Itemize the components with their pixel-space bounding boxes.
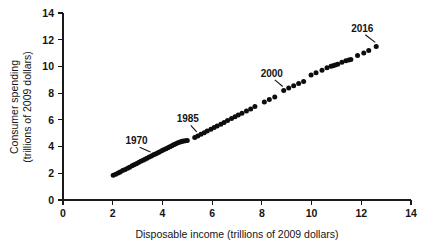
annotation-leader-2016 — [365, 35, 375, 43]
data-point — [248, 106, 253, 111]
y-tick-label: 10 — [42, 60, 54, 72]
x-tick-label: 12 — [355, 207, 367, 219]
x-axis-ticks: 02468101214 — [60, 200, 417, 219]
annotation-label-1985: 1985 — [177, 113, 200, 124]
x-tick-label: 6 — [209, 207, 215, 219]
data-point — [239, 111, 244, 116]
data-point — [361, 51, 366, 56]
annotation-leader-1970 — [140, 147, 151, 152]
data-point — [309, 73, 314, 78]
data-point — [252, 104, 257, 109]
data-point — [272, 94, 277, 99]
chart-canvas: 02468101214 02468101214 1970198520002016… — [0, 0, 429, 245]
data-point — [262, 99, 267, 104]
y-tick-label: 4 — [48, 140, 54, 152]
data-point — [244, 109, 249, 114]
scatter-chart: 02468101214 02468101214 1970198520002016… — [0, 0, 429, 245]
y-axis-title-line2: (trillions of 2009 dollars) — [21, 51, 33, 162]
data-point — [374, 44, 379, 49]
y-tick-label: 14 — [42, 7, 54, 19]
y-tick-label: 12 — [42, 34, 54, 46]
data-points-group — [111, 44, 379, 178]
x-tick-label: 8 — [259, 207, 265, 219]
y-tick-label: 2 — [48, 167, 54, 179]
annotation-label-2016: 2016 — [351, 23, 374, 34]
data-point — [301, 79, 306, 84]
data-point — [296, 81, 301, 86]
x-tick-label: 14 — [405, 207, 417, 219]
x-tick-label: 10 — [306, 207, 318, 219]
y-axis-title-line1: Consumer spending — [8, 60, 20, 154]
y-tick-label: 6 — [48, 114, 54, 126]
y-tick-label: 0 — [48, 194, 54, 206]
data-point — [281, 88, 286, 93]
data-point — [185, 138, 190, 143]
data-point — [366, 48, 371, 53]
data-point — [335, 62, 340, 67]
y-axis-group: 02468101214 — [42, 7, 63, 206]
y-tick-label: 8 — [48, 87, 54, 99]
y-axis-ticks: 02468101214 — [42, 7, 63, 206]
data-point — [291, 83, 296, 88]
x-tick-label: 0 — [60, 207, 66, 219]
annotation-label-1970: 1970 — [125, 135, 148, 146]
x-tick-label: 4 — [160, 207, 166, 219]
annotation-label-2000: 2000 — [261, 68, 284, 79]
data-point — [286, 86, 291, 91]
data-point — [348, 57, 353, 62]
data-point — [267, 97, 272, 102]
data-point — [320, 68, 325, 73]
x-tick-label: 2 — [110, 207, 116, 219]
x-axis-group: 02468101214 — [60, 200, 417, 219]
annotations-group: 1970198520002016 — [125, 23, 375, 152]
data-point — [355, 53, 360, 58]
x-axis-title: Disposable income (trillions of 2009 dol… — [135, 228, 338, 240]
annotation-leader-1985 — [191, 125, 197, 132]
data-point — [314, 70, 319, 75]
annotation-leader-2000 — [275, 80, 283, 87]
